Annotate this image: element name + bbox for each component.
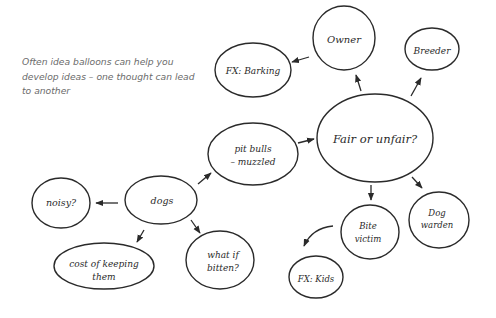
node-bite-victim-line2: victim xyxy=(355,234,381,244)
arrow-fair-dog-warden xyxy=(412,177,422,188)
node-bite-victim: Bite victim xyxy=(341,205,399,259)
arrow-fair-breeder xyxy=(411,78,421,96)
node-breeder: Breeder xyxy=(405,28,459,70)
node-pit-bulls: pit bulls – muzzled xyxy=(208,123,298,185)
arrow-pit-bulls-fair xyxy=(298,139,314,143)
node-fx-barking: FX: Barking xyxy=(215,43,291,97)
node-noisy-label: noisy? xyxy=(46,197,77,208)
node-fx-kids: FX: Kids xyxy=(289,256,343,298)
node-cost-line1: cost of keeping xyxy=(69,259,139,269)
arrow-bite-victim-fx-kids xyxy=(304,226,333,246)
node-fx-barking-label: FX: Barking xyxy=(225,66,281,76)
node-breeder-label: Breeder xyxy=(413,46,452,56)
node-cost-of-keeping: cost of keeping them xyxy=(54,243,154,289)
arrow-owner-fx-barking xyxy=(292,57,309,62)
node-cost-line2: them xyxy=(92,272,115,282)
node-dog-warden-line2: warden xyxy=(421,220,453,230)
arrow-dogs-pit-bulls xyxy=(198,173,211,184)
arrow-fair-owner xyxy=(356,75,361,91)
arrow-dogs-cost xyxy=(137,230,144,242)
node-dog-warden-line1: Dog xyxy=(427,208,446,218)
node-pit-bulls-line2: – muzzled xyxy=(230,157,275,167)
node-what-if-line2: bitten? xyxy=(207,263,239,273)
node-fair-or-unfair: Fair or unfair? xyxy=(317,94,433,182)
idea-balloon-diagram: Owner Breeder FX: Barking Fair or unfair… xyxy=(0,0,496,318)
node-dogs: dogs xyxy=(125,176,197,224)
node-dogs-label: dogs xyxy=(151,195,174,206)
node-pit-bulls-line1: pit bulls xyxy=(234,144,271,154)
node-fx-kids-label: FX: Kids xyxy=(297,274,335,284)
node-what-if-bitten: what if bitten? xyxy=(186,231,254,289)
arrow-dogs-what-if xyxy=(191,220,200,233)
node-owner-label: Owner xyxy=(327,34,362,45)
node-what-if-line1: what if xyxy=(207,250,240,260)
node-dog-warden: Dog warden xyxy=(409,192,469,248)
node-bite-victim-line1: Bite xyxy=(358,221,376,231)
node-owner: Owner xyxy=(313,6,375,70)
node-fair-or-unfair-label: Fair or unfair? xyxy=(332,132,418,146)
node-noisy: noisy? xyxy=(32,178,90,228)
